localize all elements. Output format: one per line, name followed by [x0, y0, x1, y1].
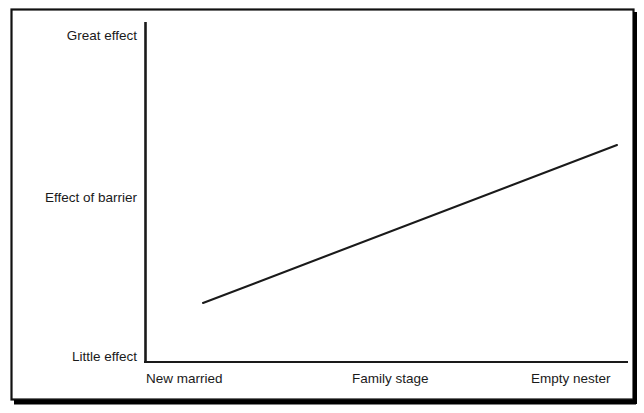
x-axis-label-new-married: New married — [146, 372, 223, 386]
x-axis-title-family-stage: Family stage — [352, 372, 429, 386]
y-axis-label-great-effect: Great effect — [67, 29, 137, 43]
series-line-effect-of-barrier — [203, 145, 617, 303]
chart-figure: Great effect Effect of barrier Little ef… — [0, 0, 644, 413]
y-axis-title-effect-of-barrier: Effect of barrier — [45, 191, 137, 205]
y-axis-label-little-effect: Little effect — [72, 350, 137, 364]
x-axis-label-empty-nester: Empty nester — [531, 372, 611, 386]
